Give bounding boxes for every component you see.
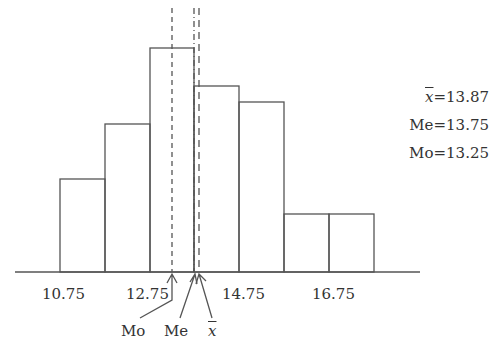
mean-arrow [196, 274, 212, 318]
median-arrow [180, 274, 197, 318]
bar-6 [284, 214, 329, 272]
mode-stat: Mo=13.25 [409, 144, 489, 162]
x-tick-label: 10.75 [42, 285, 85, 303]
bar-4 [194, 86, 239, 272]
mean-value: =13.87 [433, 88, 489, 106]
bar-1 [60, 179, 105, 272]
bar-5 [239, 102, 284, 272]
x-tick-label: 14.75 [222, 285, 265, 303]
mean-stat: x=13.87 [425, 88, 489, 106]
median-arrow-label: Me [164, 322, 188, 340]
x-tick-label: 16.75 [312, 285, 355, 303]
bar-7 [329, 214, 374, 272]
bar-2 [105, 124, 150, 272]
mean-arrow-label: x [208, 322, 216, 340]
mode-arrow-label: Mo [121, 322, 145, 340]
median-stat: Me=13.75 [409, 116, 489, 134]
x-tick-label: 12.75 [126, 285, 169, 303]
